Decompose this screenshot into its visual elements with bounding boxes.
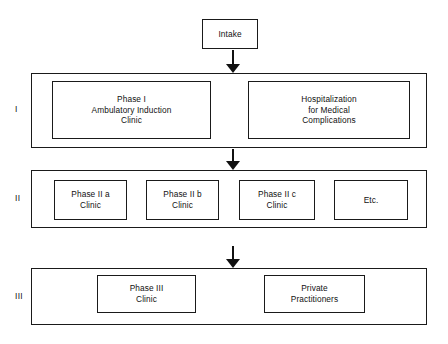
intake-label: Intake xyxy=(218,29,241,40)
arrow-head xyxy=(226,259,240,268)
arrow-shaft xyxy=(232,50,234,65)
tier-numeral-2: II xyxy=(15,193,29,203)
arrow-tier2-to-tier3 xyxy=(226,246,240,269)
box-label: Phase II a Clinic xyxy=(71,189,109,210)
tier3-box-phase-iii-clinic: Phase III Clinic xyxy=(97,275,196,313)
tier1-box-phase-i-ambulatory-induction-clinic: Phase I Ambulatory Induction Clinic xyxy=(52,81,211,139)
tier2-box-phase-ii-b-clinic: Phase II b Clinic xyxy=(146,180,219,220)
tier2-box-etc: Etc. xyxy=(334,180,408,220)
box-label: Private Practitioners xyxy=(291,283,338,304)
tier-container-3 xyxy=(31,268,427,325)
box-label: Phase II b Clinic xyxy=(163,189,201,210)
arrow-intake-to-tier1 xyxy=(226,50,240,74)
box-label: Hospitalization for Medical Complication… xyxy=(301,94,356,126)
arrow-tier1-to-tier2 xyxy=(226,149,240,171)
tier-numeral-1: I xyxy=(15,104,29,114)
tier2-box-phase-ii-a-clinic: Phase II a Clinic xyxy=(54,180,127,220)
box-label: Etc. xyxy=(364,195,379,206)
arrow-head xyxy=(226,161,240,170)
intake-box: Intake xyxy=(202,19,258,49)
tier1-box-hospitalization-for-medical-complications: Hospitalization for Medical Complication… xyxy=(248,81,410,139)
tier3-box-private-practitioners: Private Practitioners xyxy=(264,275,365,313)
tier2-box-phase-ii-c-clinic: Phase II c Clinic xyxy=(239,180,315,220)
arrow-head xyxy=(226,64,240,73)
tier-numeral-3: III xyxy=(15,291,31,301)
box-label: Phase III Clinic xyxy=(130,283,164,304)
box-label: Phase I Ambulatory Induction Clinic xyxy=(92,94,172,126)
box-label: Phase II c Clinic xyxy=(258,189,296,210)
flowchart-canvas: Intake I Phase I Ambulatory Induction Cl… xyxy=(0,0,448,344)
arrow-shaft xyxy=(232,246,234,260)
